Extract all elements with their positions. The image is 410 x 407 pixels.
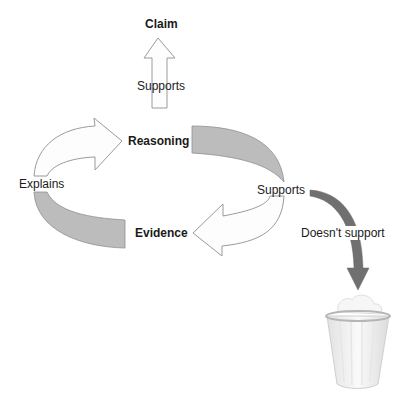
supports-claim-label: Supports bbox=[137, 79, 185, 93]
diagram-shapes bbox=[0, 0, 410, 407]
trash-can-icon bbox=[326, 295, 390, 388]
supports-evidence-arrow bbox=[193, 196, 284, 256]
claim-evidence-reasoning-diagram: Claim Supports Reasoning Explains Suppor… bbox=[0, 0, 410, 407]
explains-label: Explains bbox=[19, 177, 64, 191]
evidence-node-label: Evidence bbox=[135, 226, 188, 240]
reasoning-node-label: Reasoning bbox=[128, 134, 189, 148]
doesnt-support-label: Doesn't support bbox=[301, 226, 385, 240]
supports-evidence-label: Supports bbox=[257, 183, 305, 197]
explains-band bbox=[34, 192, 125, 248]
supports-band bbox=[192, 126, 284, 182]
explains-arrow bbox=[34, 118, 122, 176]
doesnt-support-arrow bbox=[310, 190, 369, 290]
supports-claim-arrow bbox=[144, 38, 175, 108]
claim-node-label: Claim bbox=[145, 17, 178, 31]
